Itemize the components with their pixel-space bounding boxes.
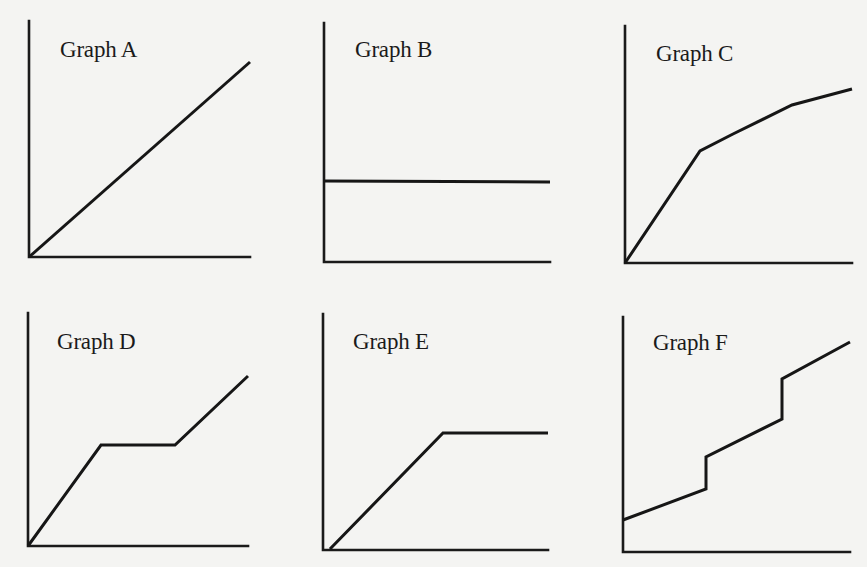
graphs-canvas [0, 0, 867, 567]
graph-b-line [324, 181, 550, 182]
graph-f-title: Graph F [653, 331, 728, 354]
graph-f-line [623, 342, 850, 520]
graph-a-title: Graph A [60, 38, 137, 61]
graph-e-title: Graph E [353, 330, 429, 353]
graph-d-line [28, 376, 248, 546]
graph-b-title: Graph B [355, 38, 432, 61]
graph-c-title: Graph C [656, 42, 733, 65]
graph-c-line [625, 89, 852, 263]
graph-d-title: Graph D [57, 330, 135, 353]
graph-e-line [330, 433, 548, 549]
graph-panel-figure: Graph A Graph B Graph C Graph D Graph E … [0, 0, 867, 567]
graph-a-line [29, 62, 250, 257]
